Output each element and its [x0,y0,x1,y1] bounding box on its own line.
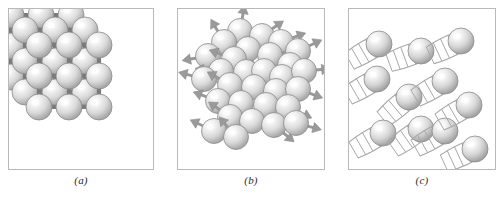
particle-sphere [462,136,488,162]
trail-rung [447,151,455,169]
motion-arrow-head [321,64,324,74]
sphere-layer [12,17,98,105]
particle-sphere [432,118,458,144]
trail-rung [433,43,441,61]
particle-sphere [432,68,458,94]
motion-arrow-head [193,90,203,100]
motion-arrow-head [182,54,191,64]
gas-particle [349,31,392,69]
particle-sphere [224,125,249,150]
trail-rung [393,50,400,69]
motion-arrow-head [179,69,189,79]
motion-arrow-head [313,90,323,100]
particle-sphere [56,32,82,58]
particle-sphere [262,113,287,138]
trail-rung [401,47,408,67]
panel-solid-frame [8,8,154,170]
particle-sphere [456,92,482,118]
trail-rung [350,83,360,100]
particle-sphere [86,94,112,120]
gas-particle [349,66,390,104]
particle-sphere [86,32,112,58]
liquid-illustration [178,9,324,169]
solid-lattice-illustration [9,9,153,169]
trail-rung [386,54,393,72]
particle-sphere [86,63,112,89]
trail-rung [349,142,358,159]
sphere-layer [26,32,112,120]
particle-sphere [408,38,434,64]
trail-rung [394,136,405,152]
particle-sphere [448,28,474,54]
motion-arrow-head [238,9,248,14]
liquid-scene [179,9,324,149]
panel-liquid-caption: (b) [244,175,257,186]
solid-scene [9,9,112,120]
panel-gas-caption: (c) [416,175,429,186]
particle-sphere [396,84,422,110]
particle-sphere [56,63,82,89]
liquid-particle [284,111,322,136]
panel-liquid: (b) [177,8,325,186]
panel-solid-caption: (a) [74,175,87,186]
gas-particle [386,38,434,72]
panel-gas-frame [348,8,496,170]
particle-sphere [364,66,390,92]
states-of-matter-figure: (a) (b) [0,0,504,200]
particle-sphere [26,32,52,58]
trail-rung [383,106,396,121]
motion-arrow-head [312,123,322,133]
trail-rung [349,88,352,105]
panel-gas: (c) [348,8,496,186]
trail-rung [352,48,362,65]
trail-rung [440,155,448,169]
particle-sphere [284,111,309,136]
gas-illustration [349,9,495,169]
panel-liquid-frame [177,8,325,170]
gas-particle [349,120,396,158]
trail-rung [349,53,354,70]
particle-sphere [26,63,52,89]
panel-solid: (a) [8,8,154,186]
particle-sphere [370,120,396,146]
particle-sphere [26,94,52,120]
trail-rung [356,137,366,154]
trail-rung [388,141,399,157]
particle-sphere [408,116,434,142]
gas-scene [349,28,488,169]
particle-sphere [56,94,82,120]
